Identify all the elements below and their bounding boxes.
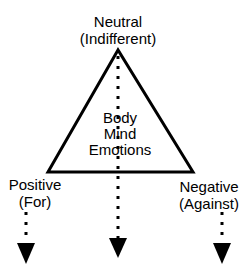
- negative-label: Negative (Against): [170, 178, 248, 212]
- negative-arrow-icon: [213, 243, 231, 264]
- positive-arrow-icon: [17, 243, 35, 264]
- neutral-label-line1: Neutral: [78, 13, 158, 30]
- center-label-body: Body: [88, 110, 152, 126]
- negative-label-line1: Negative: [170, 178, 248, 195]
- positive-label-line1: Positive: [4, 176, 66, 193]
- negative-label-line2: (Against): [170, 195, 248, 212]
- neutral-label-line2: (Indifferent): [78, 30, 158, 47]
- positive-label-line2: (For): [4, 193, 66, 210]
- center-label-mind: Mind: [88, 126, 152, 142]
- neutral-label: Neutral (Indifferent): [78, 13, 158, 47]
- center-label: Body Mind Emotions: [88, 110, 152, 158]
- positive-label: Positive (For): [4, 176, 66, 210]
- neutral-arrow-icon: [109, 238, 127, 258]
- center-label-emotions: Emotions: [88, 142, 152, 158]
